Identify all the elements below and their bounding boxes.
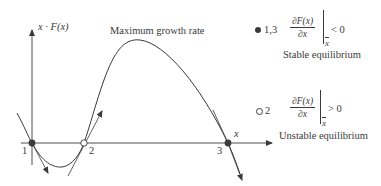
stable-denominator: ∂x — [298, 28, 307, 39]
stable-description: Stable equilibrium — [283, 50, 361, 61]
unstable-numerator: ∂F(x) — [290, 96, 315, 108]
tangent-3-upper — [213, 110, 228, 143]
x-axis-label: x — [234, 129, 239, 140]
stable-eval-bar — [323, 10, 324, 44]
unstable-eval-at: x — [322, 118, 326, 128]
filled-dot-icon — [255, 27, 261, 33]
open-dot-icon — [256, 108, 263, 115]
y-axis-label: x · F(x) — [38, 22, 69, 33]
stable-points-label: 1,3 — [264, 25, 277, 36]
unstable-points-label: 2 — [265, 106, 270, 117]
growth-curve — [17, 40, 240, 174]
point-label-3: 3 — [217, 146, 222, 157]
stable-derivative: ∂F(x) ∂x — [290, 16, 315, 39]
tangent-1 — [32, 143, 48, 173]
stable-comparison: < 0 — [331, 24, 345, 35]
point-label-2: 2 — [89, 146, 94, 157]
tangent-3 — [228, 143, 242, 180]
stable-eval-at: x — [325, 38, 329, 48]
unstable-description: Unstable equilibrium — [279, 131, 368, 142]
peak-annotation: Maximum growth rate — [110, 26, 204, 37]
unstable-denominator: ∂x — [298, 108, 307, 119]
point-label-1: 1 — [22, 146, 27, 157]
equilibrium-point-3 — [225, 140, 232, 147]
equilibrium-point-2 — [81, 140, 87, 146]
stable-numerator: ∂F(x) — [290, 16, 315, 28]
unstable-derivative: ∂F(x) ∂x — [290, 96, 315, 119]
unstable-eval-bar — [320, 90, 321, 124]
equilibrium-point-1 — [29, 140, 36, 147]
unstable-comparison: > 0 — [328, 103, 342, 114]
